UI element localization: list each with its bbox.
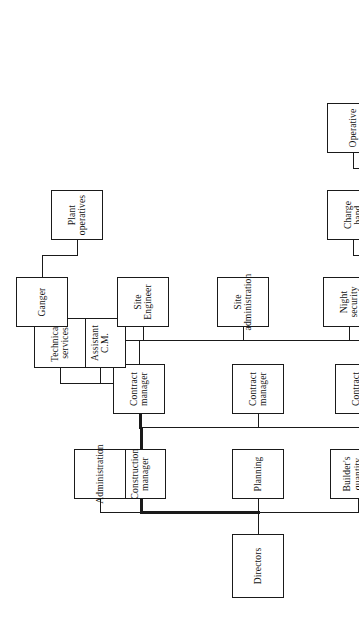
node-site-administration-label: Site administration: [233, 274, 254, 331]
edge-to-site-engineer: [143, 327, 144, 341]
node-site-engineer-label: Site Engineer: [133, 284, 154, 319]
node-plant-operatives-label: Plant operatives: [67, 195, 88, 235]
node-builders-quantity-surveyor[interactable]: Builder's quantity surveyor: [330, 449, 359, 499]
edge-to-assistant-cm: [100, 368, 101, 384]
edge-to-night-security: [349, 327, 350, 341]
edge-directors-stub: [258, 512, 259, 534]
edge-to-planning: [258, 499, 259, 513]
node-contract-manager-2-label: Contract manager: [248, 372, 269, 406]
node-contract-manager-3-label: Contract manager: [129, 372, 150, 406]
rotated-figure-canvas: Directors Builder's quantity surveyor Pl…: [0, 0, 359, 624]
edge-ganger-drop: [42, 255, 78, 256]
node-plant-operatives[interactable]: Plant operatives: [51, 190, 103, 240]
node-operative-3[interactable]: Operative: [327, 103, 359, 153]
node-builders-quantity-surveyor-label: Builder's quantity surveyor: [342, 452, 359, 496]
node-directors[interactable]: Directors: [232, 534, 284, 598]
edge-to-technical-services: [60, 368, 61, 384]
node-site-administration[interactable]: Site administration: [217, 277, 269, 327]
edge-to-contract-manager-3: [139, 413, 142, 429]
edge-site-bus-stub: [139, 340, 140, 364]
organisation-chart: Directors Builder's quantity surveyor Pl…: [0, 0, 359, 624]
node-contract-manager-1[interactable]: Contract manager: [335, 364, 359, 414]
node-site-engineer[interactable]: Site Engineer: [117, 277, 169, 327]
node-directors-label: Directors: [253, 548, 263, 585]
node-night-security-label: Night security: [339, 286, 359, 317]
edge-construction-manager-stub: [140, 427, 143, 449]
edge-to-contract-manager-2: [258, 414, 259, 428]
edge-bus-level2: [140, 427, 359, 428]
node-planning[interactable]: Planning: [232, 449, 284, 499]
node-contract-manager-3[interactable]: Contract manager: [113, 364, 165, 414]
edge-to-charge-hand-3: [353, 240, 354, 256]
node-technical-services-label: Technical services: [50, 324, 71, 362]
node-administration-label: Administration: [95, 444, 105, 504]
node-ganger-label: Ganger: [37, 288, 47, 317]
node-assistant-cm-label: Assistant C.M.: [90, 325, 111, 361]
node-contract-manager-1-label: Contract manager: [351, 372, 359, 406]
node-administration[interactable]: Administration: [74, 449, 126, 499]
edge-bus-level1-emphasis: [140, 511, 259, 514]
edge-to-construction-manager: [140, 498, 143, 513]
node-construction-manager-label: Construction manager: [130, 449, 151, 500]
node-night-security[interactable]: Night security: [323, 277, 359, 327]
node-planning-label: Planning: [253, 457, 263, 492]
edge-to-plant-operatives: [77, 240, 78, 256]
node-contract-manager-2[interactable]: Contract manager: [232, 364, 284, 414]
edge-ganger-stub: [42, 255, 43, 277]
node-ganger[interactable]: Ganger: [16, 277, 68, 327]
node-operative-3-label: Operative: [348, 109, 358, 148]
node-charge-hand-3-label: Charge hand: [343, 201, 359, 229]
edge-to-operative-3: [353, 153, 354, 169]
node-charge-hand-3[interactable]: Charge hand: [327, 190, 359, 240]
